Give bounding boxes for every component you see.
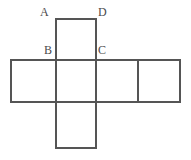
vertex-label-a: A [40, 6, 49, 18]
cube-net-figure: A D B C [0, 0, 191, 160]
vertex-label-c: C [98, 44, 106, 56]
net-line-group [11, 19, 180, 148]
vertex-label-b: B [44, 44, 52, 56]
cube-net-svg [0, 0, 191, 160]
vertex-label-d: D [98, 6, 107, 18]
